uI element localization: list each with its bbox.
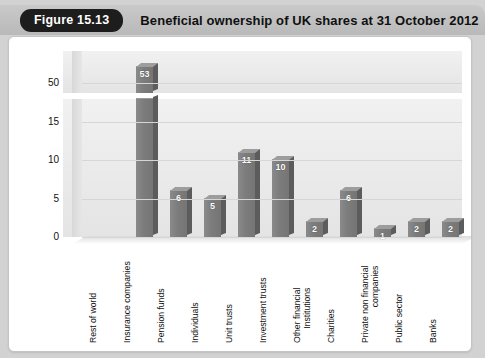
grid-line (82, 122, 462, 123)
chart-bar[interactable]: 6 (340, 190, 357, 237)
y-tick-label: 0 (33, 231, 59, 242)
chart-bar[interactable]: 2 (442, 221, 459, 237)
plot-left-wall-lower (72, 99, 82, 237)
x-tick-label: Other financialInstitutions (292, 288, 312, 343)
y-tick-label: 15 (33, 116, 59, 127)
y-tick-label: 5 (33, 193, 59, 204)
chart-bar-side (357, 187, 362, 235)
bar-value-label: 10 (272, 162, 289, 172)
x-tick-label: Private non financialcompanies (360, 266, 380, 343)
bar-slot (136, 99, 158, 237)
x-tick-label: Individuals (190, 302, 200, 343)
x-tick-label: Insurance companies (122, 261, 132, 343)
x-tick-label-line: Other financial (292, 288, 302, 343)
bar-slot: 2 (408, 99, 430, 237)
bars-group-upper: 53 (136, 51, 472, 93)
y-tick-label: 10 (33, 154, 59, 165)
chart-card: Percentage of UK stock market owned by v… (8, 36, 472, 352)
figure-title: Beneficial ownership of UK shares at 31 … (140, 13, 478, 28)
chart-bar-side (153, 95, 158, 235)
x-tick-label-line: Unit trusts (224, 304, 234, 343)
figure-container: Figure 15.13 Beneficial ownership of UK … (0, 0, 485, 358)
bar-slot: 53 (136, 51, 158, 93)
x-tick-label: Rest of world (88, 293, 98, 343)
chart-bar[interactable] (136, 98, 153, 237)
x-tick-label: Public sector (394, 294, 404, 343)
x-tick-label: Unit trusts (224, 304, 234, 343)
x-tick-label-line: Charities (326, 309, 336, 343)
x-tick-label-line: Investment trusts (258, 278, 268, 343)
x-tick-label-line: Institutions (302, 288, 312, 343)
x-tick-label-line: Rest of world (88, 293, 98, 343)
chart-plot-area-lower: 651110261222 (63, 99, 462, 237)
bar-slot: 2 (442, 99, 464, 237)
plot-left-wall-upper (72, 51, 82, 93)
bar-value-label: 2 (442, 224, 459, 234)
x-tick-label: Pension funds (156, 289, 166, 343)
chart-bar[interactable]: 1 (374, 228, 391, 237)
bar-value-label: 2 (306, 224, 323, 234)
chart-bar-side (255, 149, 260, 235)
chart-bar-side (187, 187, 192, 235)
grid-line (82, 160, 462, 161)
chart-bar-side (221, 195, 226, 235)
x-tick-label-line: Pension funds (156, 289, 166, 343)
bar-value-label: 5 (204, 201, 221, 211)
chart-bar[interactable]: 5 (204, 198, 221, 237)
x-axis-tick-labels: Rest of worldInsurance companiesPension … (73, 243, 453, 347)
bar-value-label: 53 (136, 69, 153, 79)
grid-line (82, 199, 462, 200)
chart-bar[interactable]: 11 (238, 152, 255, 237)
y-axis-tick-labels: 05101550 (31, 37, 59, 351)
x-tick-label: Investment trusts (258, 278, 268, 343)
bar-slot: 6 (170, 99, 192, 237)
x-tick-label-line: Private non financial (360, 266, 370, 343)
bar-value-label: 2 (408, 224, 425, 234)
x-tick-label-line: Insurance companies (122, 261, 132, 343)
bar-slot: 6 (340, 99, 362, 237)
y-tick-label: 50 (33, 77, 59, 88)
bar-slot: 11 (238, 99, 260, 237)
bar-slot: 1 (374, 99, 396, 237)
x-tick-label-line: Individuals (190, 302, 200, 343)
grid-line (82, 237, 462, 238)
figure-header: Figure 15.13 Beneficial ownership of UK … (0, 5, 485, 35)
chart-bar[interactable]: 2 (408, 221, 425, 237)
figure-number-badge: Figure 15.13 (20, 9, 123, 32)
chart-bar[interactable]: 53 (136, 66, 153, 93)
bar-slot: 10 (272, 99, 294, 237)
chart-bar-side (289, 156, 294, 235)
bar-slot: 5 (204, 99, 226, 237)
chart-bar[interactable]: 2 (306, 221, 323, 237)
chart-plot-area-upper: 53 (63, 51, 462, 93)
chart-bar-side (153, 63, 158, 91)
chart-bar[interactable]: 6 (170, 190, 187, 237)
x-tick-label-line: companies (370, 266, 380, 343)
grid-line (82, 83, 462, 84)
x-tick-label-line: Banks (428, 319, 438, 343)
bar-slot: 2 (306, 99, 328, 237)
x-tick-label-line: Public sector (394, 294, 404, 343)
bars-group-lower: 651110261222 (136, 99, 472, 237)
x-tick-label: Banks (428, 319, 438, 343)
x-tick-label: Charities (326, 309, 336, 343)
